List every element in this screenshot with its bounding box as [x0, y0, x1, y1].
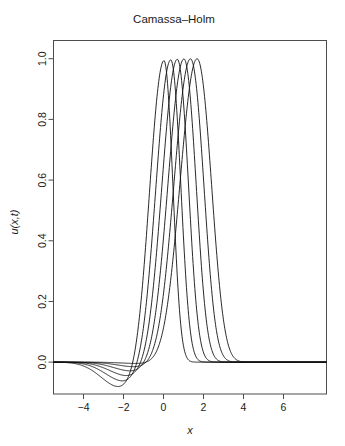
y-tick-label: 0.4: [36, 233, 48, 248]
y-axis-label: u(x,t): [8, 209, 20, 234]
chart-title: Camassa–Holm: [133, 13, 215, 25]
y-axis-ticks: 0.00.20.40.60.81.0: [36, 51, 53, 369]
x-tick-label: −4: [78, 401, 90, 413]
y-tick-label: 0.8: [36, 112, 48, 127]
x-tick-label: −2: [118, 401, 130, 413]
data-curve: [54, 61, 327, 387]
curve-group: [54, 59, 327, 387]
x-tick-label: 6: [281, 401, 287, 413]
y-tick-label: 0.0: [36, 355, 48, 370]
y-tick-label: 1.0: [36, 51, 48, 66]
chart-figure: Camassa–Holm −4−20246 0.00.20.40.60.81.0…: [0, 0, 345, 446]
x-tick-label: 0: [161, 401, 167, 413]
x-tick-label: 2: [201, 401, 207, 413]
y-tick-label: 0.6: [36, 173, 48, 188]
camassa-holm-plot: Camassa–Holm −4−20246 0.00.20.40.60.81.0…: [0, 0, 345, 446]
data-curve: [54, 60, 327, 381]
x-axis-label: x: [186, 424, 193, 436]
x-tick-label: 4: [241, 401, 247, 413]
y-tick-label: 0.2: [36, 294, 48, 309]
x-axis-ticks: −4−20246: [78, 394, 287, 413]
